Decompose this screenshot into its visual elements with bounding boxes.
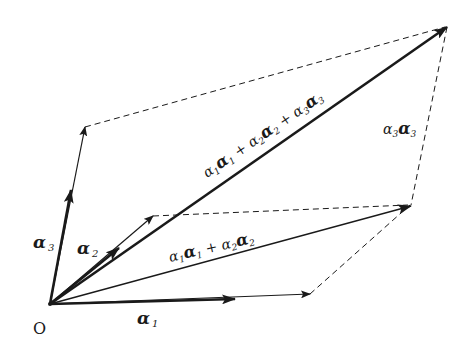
vector-a2 [50,216,153,304]
label-sum-12-group: α1α1 + α2α2 [167,228,257,267]
dashed-edge-lower-right [310,205,410,294]
label-sum-123: α1α1 + α2α2 + α3α3 [199,87,327,183]
vector-sum-123 [50,27,447,304]
dashed-edge-right-vertical [411,27,447,205]
vector-a1 [50,294,310,304]
vector-diagram: O α1 α3 α2 α3α3 α1α1 + α2α2 α1α1 + α2α2 … [0,0,476,356]
origin-label: O [33,319,46,338]
label-sum-12: α1α1 + α2α2 [167,228,257,267]
vector-sum-12 [50,206,411,304]
label-a3a3: α3α3 [383,119,417,139]
dashed-edges [85,27,447,294]
label-a2: α2 [77,238,98,259]
dashed-edge-top [85,27,445,127]
vector-a1-base [50,299,235,304]
label-a1: α1 [137,308,158,329]
vector-a3 [50,127,85,304]
origin-point [48,302,52,306]
label-a3: α3 [33,232,54,253]
label-sum-123-group: α1α1 + α2α2 + α3α3 [199,87,327,183]
